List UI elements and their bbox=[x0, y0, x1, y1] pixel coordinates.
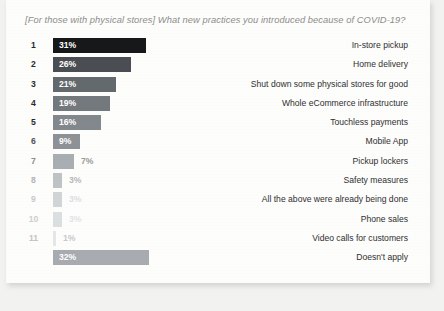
bar-category-label: Touchless payments bbox=[330, 115, 408, 130]
bar-row: 131%In-store pickup bbox=[6, 38, 430, 57]
bar-wrapper: 16% bbox=[53, 115, 101, 130]
bar: 7% bbox=[53, 154, 74, 169]
bar: 9% bbox=[53, 134, 80, 149]
bar-value-label: 32% bbox=[59, 250, 76, 265]
bar-rank: 2 bbox=[24, 57, 43, 72]
bar-wrapper: 3% bbox=[53, 173, 62, 188]
bar-category-label: Shut down some physical stores for good bbox=[251, 77, 408, 92]
bar-wrapper: 26% bbox=[53, 57, 131, 72]
bar: 16% bbox=[53, 115, 101, 130]
bar-row: 419%Whole eCommerce infrastructure bbox=[6, 96, 430, 115]
bar-value-label: 7% bbox=[81, 154, 93, 169]
bar-wrapper: 19% bbox=[53, 96, 110, 111]
bar-rank: 11 bbox=[24, 231, 43, 246]
bar-category-label: Whole eCommerce infrastructure bbox=[282, 96, 408, 111]
bar-row: 226%Home delivery bbox=[6, 57, 430, 76]
bar-value-label: 9% bbox=[59, 134, 71, 149]
chart-page: [For those with physical stores] What ne… bbox=[0, 0, 444, 311]
bar-category-label: In-store pickup bbox=[352, 38, 408, 53]
bar-row: 83%Safety measures bbox=[6, 173, 430, 192]
bar-rank: 1 bbox=[24, 38, 43, 53]
bar-row: 111%Video calls for customers bbox=[6, 231, 430, 250]
bar-wrapper: 3% bbox=[53, 212, 62, 227]
bar-row: 93%All the above were already being done bbox=[6, 192, 430, 211]
bar-value-label: 3% bbox=[69, 192, 81, 207]
bar: 19% bbox=[53, 96, 110, 111]
bar-rank: 6 bbox=[24, 134, 43, 149]
bar-row: 321%Shut down some physical stores for g… bbox=[6, 77, 430, 96]
bar: 3% bbox=[53, 173, 62, 188]
bar-rank: 4 bbox=[24, 96, 43, 111]
bar-rank: 3 bbox=[24, 77, 43, 92]
bar-category-label: Video calls for customers bbox=[312, 231, 408, 246]
bar: 32% bbox=[53, 250, 149, 265]
bar-wrapper: 32% bbox=[53, 250, 149, 265]
bar-category-label: Home delivery bbox=[353, 57, 408, 72]
bar: 26% bbox=[53, 57, 131, 72]
bar-row: 103%Phone sales bbox=[6, 212, 430, 231]
bar-row: 77%Pickup lockers bbox=[6, 154, 430, 173]
chart-title: [For those with physical stores] What ne… bbox=[25, 15, 425, 25]
bar: 31% bbox=[53, 38, 146, 53]
bar-category-label: Mobile App bbox=[365, 134, 408, 149]
bar-wrapper: 31% bbox=[53, 38, 146, 53]
bar-rank: 9 bbox=[24, 192, 43, 207]
bar-wrapper: 7% bbox=[53, 154, 74, 169]
bar-category-label: Pickup lockers bbox=[353, 154, 408, 169]
bar: 3% bbox=[53, 212, 62, 227]
bar-category-label: All the above were already being done bbox=[262, 192, 408, 207]
bar-row: 32%Doesn't apply bbox=[6, 250, 430, 269]
bar-rank: 7 bbox=[24, 154, 43, 169]
bar-rank: 10 bbox=[24, 212, 43, 227]
bar-wrapper: 21% bbox=[53, 77, 116, 92]
bar-value-label: 16% bbox=[59, 115, 76, 130]
bar-value-label: 3% bbox=[69, 173, 81, 188]
bar-wrapper: 1% bbox=[53, 231, 56, 246]
bar: 21% bbox=[53, 77, 116, 92]
bar-value-label: 26% bbox=[59, 57, 76, 72]
bar-wrapper: 3% bbox=[53, 192, 62, 207]
bar-value-label: 31% bbox=[59, 38, 76, 53]
bar-chart-plot: 131%In-store pickup226%Home delivery321%… bbox=[6, 38, 430, 270]
bar-rank: 8 bbox=[24, 173, 43, 188]
bar-wrapper: 9% bbox=[53, 134, 80, 149]
bar: 1% bbox=[53, 231, 56, 246]
bar-rank: 5 bbox=[24, 115, 43, 130]
bar-value-label: 19% bbox=[59, 96, 76, 111]
chart-card: [For those with physical stores] What ne… bbox=[6, 0, 430, 283]
bar-rank bbox=[24, 250, 43, 265]
bar-category-label: Safety measures bbox=[344, 173, 408, 188]
bar: 3% bbox=[53, 192, 62, 207]
bar-value-label: 21% bbox=[59, 77, 76, 92]
bar-category-label: Doesn't apply bbox=[356, 250, 408, 265]
bar-row: 516%Touchless payments bbox=[6, 115, 430, 134]
bar-category-label: Phone sales bbox=[361, 212, 408, 227]
bar-value-label: 1% bbox=[63, 231, 75, 246]
bar-value-label: 3% bbox=[69, 212, 81, 227]
bar-row: 69%Mobile App bbox=[6, 134, 430, 153]
